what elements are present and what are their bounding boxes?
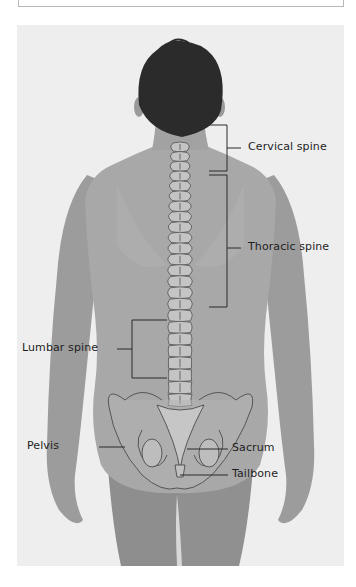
vertebra [168, 381, 192, 394]
label-thoracic-spine: Thoracic spine [248, 240, 329, 253]
vertebra [168, 333, 192, 345]
vertebra [168, 369, 191, 382]
label-lumbar-spine: Lumbar spine [22, 341, 98, 354]
vertebra [168, 345, 191, 357]
label-tailbone: Tailbone [232, 467, 278, 480]
vertebra [168, 298, 192, 310]
vertebra [168, 232, 191, 243]
vertebra [168, 265, 192, 277]
vertebra [168, 254, 192, 265]
vertebra [169, 211, 191, 222]
vertebra [170, 171, 190, 181]
vertebra [168, 357, 191, 370]
vertebra [168, 276, 192, 288]
vertebra [168, 310, 192, 322]
head-hair [138, 41, 222, 137]
vertebra [171, 142, 189, 152]
vertebra [170, 181, 191, 192]
vertebra [171, 152, 190, 162]
vertebra [169, 191, 190, 202]
vertebra [170, 161, 189, 171]
vertebra [169, 222, 192, 233]
label-cervical-spine: Cervical spine [248, 140, 327, 153]
label-sacrum: Sacrum [232, 441, 275, 454]
vertebra [169, 201, 191, 212]
vertebra [168, 243, 192, 254]
body-illustration [17, 25, 344, 566]
anatomy-figure: Cervical spine Thoracic spine Lumbar spi… [17, 25, 344, 566]
label-pelvis: Pelvis [27, 439, 59, 452]
vertebra [168, 287, 192, 299]
vertebra [168, 321, 192, 333]
top-frame [18, 0, 344, 7]
